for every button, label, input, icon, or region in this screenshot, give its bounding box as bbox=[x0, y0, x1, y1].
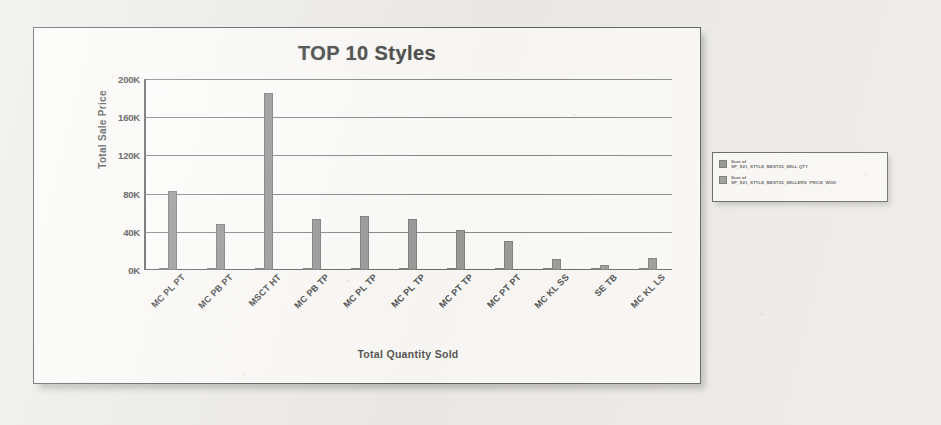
x-tick-label: MC PT PT bbox=[485, 272, 523, 310]
chart-title: TOP 10 Styles bbox=[34, 42, 700, 65]
bar-group[interactable] bbox=[528, 79, 576, 270]
y-tick-label: 80K bbox=[123, 188, 140, 199]
y-tick-label: 40K bbox=[123, 226, 140, 237]
bar-quantity[interactable] bbox=[447, 268, 456, 270]
x-tick-label: MC PT TP bbox=[437, 272, 475, 310]
bar-price[interactable] bbox=[168, 191, 177, 270]
bar-group[interactable] bbox=[240, 79, 288, 270]
y-tick-label: 0K bbox=[128, 265, 140, 276]
x-axis-title: Total Quantity Sold bbox=[144, 348, 672, 360]
bar-quantity[interactable] bbox=[543, 268, 552, 270]
legend-swatch-icon bbox=[719, 160, 727, 168]
bar-price[interactable] bbox=[216, 224, 225, 270]
bar-quantity[interactable] bbox=[159, 268, 168, 270]
bar-group[interactable] bbox=[480, 79, 528, 270]
legend-item[interactable]: Sum ofSP_S21_STYLE_BEST25_SELL QTY bbox=[719, 159, 882, 170]
bar-price[interactable] bbox=[648, 258, 657, 270]
bar-group[interactable] bbox=[576, 79, 624, 270]
bar-price[interactable] bbox=[408, 219, 417, 270]
x-tick-label: SE TB bbox=[593, 272, 620, 299]
bar-quantity[interactable] bbox=[303, 268, 312, 270]
legend-label: Sum ofSP_S21_STYLE_BEST25_SELL QTY bbox=[731, 159, 808, 170]
bar-quantity[interactable] bbox=[207, 268, 216, 270]
bar-quantity[interactable] bbox=[495, 268, 504, 270]
bar-quantity[interactable] bbox=[351, 268, 360, 270]
bar-price[interactable] bbox=[600, 265, 609, 270]
x-tick-label: MC PL TP bbox=[341, 272, 379, 310]
bar-group[interactable] bbox=[432, 79, 480, 270]
bar-price[interactable] bbox=[264, 93, 273, 270]
chart-frame: TOP 10 Styles Total Sale Price 0K40K80K1… bbox=[33, 27, 701, 384]
y-tick-label: 120K bbox=[118, 150, 140, 161]
x-tick-label: MC PB PT bbox=[196, 272, 235, 311]
bar-group[interactable] bbox=[336, 79, 384, 270]
bar-price[interactable] bbox=[456, 230, 465, 270]
chart-legend: Sum ofSP_S21_STYLE_BEST25_SELL QTYSum of… bbox=[712, 152, 888, 202]
y-axis-tick-labels: 0K40K80K120K160K200K bbox=[96, 79, 140, 270]
legend-label: Sum ofSP_S21_STYLE_BEST25_SELLERS_PRICE_… bbox=[731, 175, 836, 186]
bar-price[interactable] bbox=[360, 216, 369, 270]
x-axis-tick-labels: MC PL PTMC PB PTMSCT HTMC PB TPMC PL TPM… bbox=[144, 272, 672, 342]
y-tick-label: 200K bbox=[118, 74, 140, 85]
legend-swatch-icon bbox=[719, 176, 727, 184]
bar-group[interactable] bbox=[144, 79, 192, 270]
plot-area bbox=[144, 79, 672, 270]
bar-group[interactable] bbox=[624, 79, 672, 270]
x-tick-label: MC KL LS bbox=[629, 272, 667, 310]
x-tick-label: MC PB TP bbox=[292, 272, 331, 311]
legend-item[interactable]: Sum ofSP_S21_STYLE_BEST25_SELLERS_PRICE_… bbox=[719, 175, 882, 186]
y-tick-label: 160K bbox=[118, 112, 140, 123]
bar-price[interactable] bbox=[552, 259, 561, 270]
bar-quantity[interactable] bbox=[399, 268, 408, 270]
x-tick-label: MC PL TP bbox=[389, 272, 427, 310]
bar-group[interactable] bbox=[288, 79, 336, 270]
bar-group[interactable] bbox=[384, 79, 432, 270]
bar-quantity[interactable] bbox=[639, 268, 648, 270]
bar-quantity[interactable] bbox=[255, 268, 264, 270]
bar-price[interactable] bbox=[504, 241, 513, 270]
x-tick-label: MC PL PT bbox=[149, 272, 187, 310]
bar-quantity[interactable] bbox=[591, 268, 600, 270]
bar-group[interactable] bbox=[192, 79, 240, 270]
bar-price[interactable] bbox=[312, 219, 321, 270]
x-tick-label: MC KL SS bbox=[533, 272, 572, 311]
x-tick-label: MSCT HT bbox=[247, 272, 283, 308]
